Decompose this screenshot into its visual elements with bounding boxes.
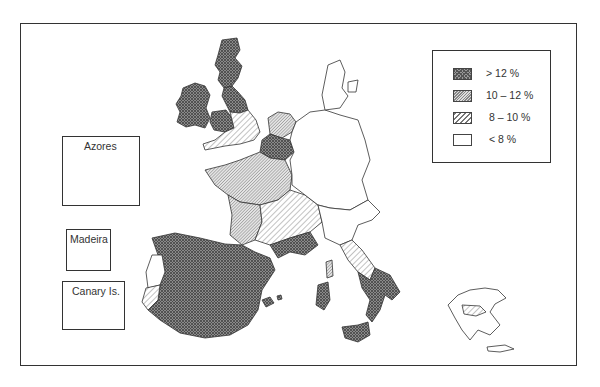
region-sardinia xyxy=(316,282,330,310)
region-italy-south xyxy=(358,268,400,322)
legend-item-mid: 10 – 12 % xyxy=(453,90,548,104)
region-sicily xyxy=(342,322,370,342)
region-france-north xyxy=(205,152,292,205)
inset-azores: Azores xyxy=(62,136,140,206)
legend-item-low: 8 – 10 % xyxy=(453,112,548,126)
region-spain xyxy=(148,233,275,338)
region-denmark xyxy=(322,60,348,110)
region-balearics xyxy=(262,297,274,307)
legend-label: > 12 % xyxy=(486,67,519,79)
region-crete xyxy=(487,345,514,352)
inset-canary-label: Canary Is. xyxy=(72,285,120,297)
legend-label: 8 – 10 % xyxy=(489,111,530,123)
region-north-england xyxy=(222,86,248,113)
swatch-blank-icon xyxy=(453,134,472,146)
inset-madeira: Madeira xyxy=(66,229,111,271)
swatch-fine-hatch-icon xyxy=(453,90,472,102)
legend-label: 10 – 12 % xyxy=(486,89,533,101)
region-italy-central xyxy=(340,240,375,280)
inset-madeira-label: Madeira xyxy=(70,233,108,245)
inset-azores-label: Azores xyxy=(84,140,117,152)
swatch-crosshatch-icon xyxy=(453,68,472,80)
legend: > 12 % 10 – 12 % 8 – 10 % < 8 % xyxy=(432,50,551,163)
region-corsica xyxy=(326,260,333,278)
legend-item-high: > 12 % xyxy=(453,68,548,82)
inset-canary-islands: Canary Is. xyxy=(62,281,125,330)
legend-label: < 8 % xyxy=(489,133,516,145)
region-scotland xyxy=(215,38,242,88)
legend-item-none: < 8 % xyxy=(453,134,548,148)
swatch-wide-hatch-icon xyxy=(453,112,472,124)
region-ireland xyxy=(176,83,210,128)
